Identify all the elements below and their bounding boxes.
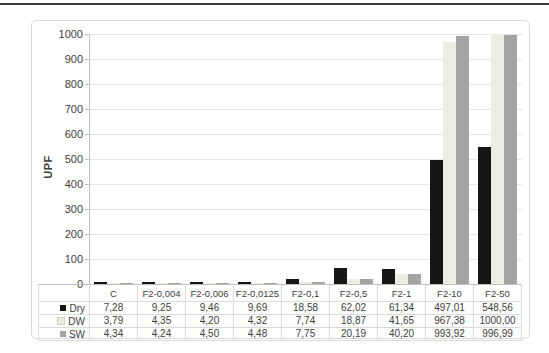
bar-dw-F2-1	[395, 274, 408, 284]
y-tick-label-1000: 1000	[42, 28, 83, 40]
table-cell: 7,75	[282, 327, 330, 340]
y-tick-label-700: 700	[42, 103, 83, 115]
table-cell: 20,19	[330, 327, 378, 340]
bar-dw-F2-50	[491, 34, 504, 284]
series-name-cell: SW	[39, 327, 90, 340]
table-cell: 497,01	[426, 302, 474, 315]
data-table: CF2-0,004F2-0,006F2-0,0125F2-0,1F2-0,5F2…	[38, 284, 522, 341]
category-label: F2-50	[474, 285, 522, 302]
y-tick-label-200: 200	[42, 228, 83, 240]
table-cell: 7,28	[90, 302, 138, 315]
y-tick-label-400: 400	[42, 178, 83, 190]
bar-sw-F2-50	[504, 35, 517, 284]
table-cell: 4,48	[234, 327, 282, 340]
category-label: F2-0,1	[282, 285, 330, 302]
category-header-row: CF2-0,004F2-0,006F2-0,0125F2-0,1F2-0,5F2…	[39, 285, 522, 302]
table-cell: 1000,00	[474, 314, 522, 327]
bar-dry-F2-10	[430, 160, 443, 284]
bar-sw-F2-10	[456, 36, 469, 284]
table-cell: 3,79	[90, 314, 138, 327]
table-cell: 4,35	[138, 314, 186, 327]
table-cell: 18,87	[330, 314, 378, 327]
table-cell: 967,38	[426, 314, 474, 327]
category-label: F2-1	[378, 285, 426, 302]
table-cell: 18,58	[282, 302, 330, 315]
table-cell: 4,50	[186, 327, 234, 340]
legend-swatch-sw	[60, 331, 66, 337]
table-corner-cell	[39, 285, 90, 302]
bar-dw-F2-10	[443, 42, 456, 284]
y-tick-label-600: 600	[42, 128, 83, 140]
table-cell: 62,02	[330, 302, 378, 315]
table-cell: 7,74	[282, 314, 330, 327]
table-cell: 4,24	[138, 327, 186, 340]
plot-area	[89, 34, 522, 284]
bar-sw-F2-1	[408, 274, 421, 284]
series-name-cell: DW	[39, 314, 90, 327]
bar-dry-F2-1	[382, 269, 395, 284]
category-label: F2-0,006	[186, 285, 234, 302]
bar-dry-F2-50	[478, 147, 491, 284]
table-cell: 4,34	[90, 327, 138, 340]
y-tick-label-500: 500	[42, 153, 83, 165]
table-cell: 41,65	[378, 314, 426, 327]
table-row-dw: DW3,794,354,204,327,7418,8741,65967,3810…	[39, 314, 522, 327]
series-name-label: SW	[69, 329, 85, 340]
table-cell: 9,46	[186, 302, 234, 315]
y-tick-label-100: 100	[42, 253, 83, 265]
table-cell: 40,20	[378, 327, 426, 340]
table-cell: 548,56	[474, 302, 522, 315]
page: UPF 01002003004005006007008009001000 CF2…	[0, 0, 549, 353]
series-name-cell: Dry	[39, 302, 90, 315]
legend-swatch-dry	[60, 305, 66, 311]
bar-dry-F2-0,5	[334, 268, 347, 284]
table-cell: 9,69	[234, 302, 282, 315]
series-name-label: DW	[68, 316, 85, 327]
category-label: F2-10	[426, 285, 474, 302]
y-tick-label-800: 800	[42, 78, 83, 90]
table-row-dry: Dry7,289,259,469,6918,5862,0261,34497,01…	[39, 302, 522, 315]
table-cell: 9,25	[138, 302, 186, 315]
table-row-sw: SW4,344,244,504,487,7520,1940,20993,9299…	[39, 327, 522, 340]
table-cell: 996,99	[474, 327, 522, 340]
gridline-1000	[89, 34, 522, 35]
table-cell: 4,32	[234, 314, 282, 327]
category-label: F2-0,0125	[234, 285, 282, 302]
category-label: F2-0,5	[330, 285, 378, 302]
table-cell: 61,34	[378, 302, 426, 315]
table-cell: 4,20	[186, 314, 234, 327]
legend-swatch-dw	[57, 317, 65, 325]
category-label: F2-0,004	[138, 285, 186, 302]
top-rule	[0, 3, 549, 5]
y-tick-label-300: 300	[42, 203, 83, 215]
category-label: C	[90, 285, 138, 302]
series-name-label: Dry	[69, 303, 85, 314]
chart-container: UPF 01002003004005006007008009001000 CF2…	[31, 20, 530, 339]
y-tick-label-900: 900	[42, 53, 83, 65]
table-cell: 993,92	[426, 327, 474, 340]
y-axis-line	[89, 34, 90, 285]
